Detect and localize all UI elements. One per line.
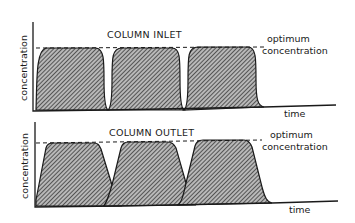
outlet-peak-3 (177, 140, 272, 205)
outlet-optimum-label-line2: concentration (262, 141, 328, 152)
outlet-peak-2 (103, 142, 196, 206)
inlet-optimum-label-line2: concentration (262, 45, 328, 56)
outlet-x-axis-label: time (289, 204, 311, 215)
inlet-x-axis-label: time (284, 108, 306, 119)
inlet-y-axis-label: concentration (18, 35, 29, 101)
outlet-title: COLUMN OUTLET (109, 127, 194, 138)
outlet-y-axis-label: concentration (19, 133, 30, 199)
inlet-peak-3 (184, 47, 264, 110)
chromatography-concentration-diagram: concentration COLUMN INLET optimum conce… (0, 0, 355, 223)
inlet-title: COLUMN INLET (107, 29, 182, 40)
outlet-optimum-label: optimum (270, 129, 313, 140)
outlet-panel: concentration COLUMN OUTLET optimum conc… (19, 122, 338, 215)
inlet-peak-2 (108, 48, 184, 110)
inlet-peak-1 (36, 48, 108, 110)
inlet-panel: concentration COLUMN INLET optimum conce… (18, 22, 336, 119)
inlet-optimum-label: optimum (267, 33, 310, 44)
